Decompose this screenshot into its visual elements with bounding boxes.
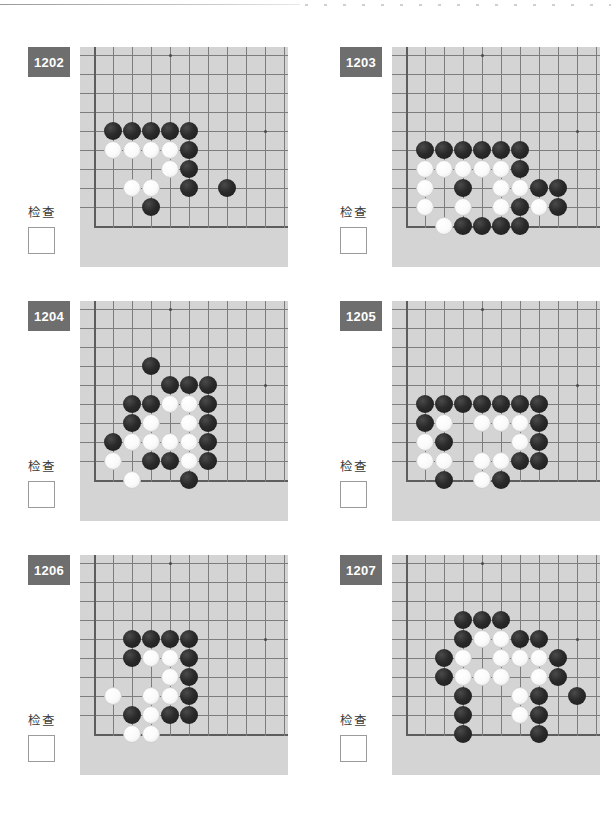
go-board[interactable]: [80, 301, 288, 521]
white-stone[interactable]: [454, 668, 472, 686]
black-stone[interactable]: [180, 141, 198, 159]
black-stone[interactable]: [161, 376, 179, 394]
white-stone[interactable]: [180, 395, 198, 413]
black-stone[interactable]: [218, 179, 236, 197]
black-stone[interactable]: [473, 141, 491, 159]
black-stone[interactable]: [454, 630, 472, 648]
white-stone[interactable]: [161, 141, 179, 159]
white-stone[interactable]: [180, 452, 198, 470]
white-stone[interactable]: [123, 141, 141, 159]
check-checkbox[interactable]: [340, 227, 367, 254]
black-stone[interactable]: [180, 376, 198, 394]
black-stone[interactable]: [492, 395, 510, 413]
white-stone[interactable]: [142, 433, 160, 451]
black-stone[interactable]: [142, 357, 160, 375]
white-stone[interactable]: [142, 706, 160, 724]
black-stone[interactable]: [454, 687, 472, 705]
black-stone[interactable]: [511, 141, 529, 159]
black-stone[interactable]: [492, 471, 510, 489]
white-stone[interactable]: [104, 687, 122, 705]
black-stone[interactable]: [199, 433, 217, 451]
white-stone[interactable]: [473, 471, 491, 489]
white-stone[interactable]: [511, 687, 529, 705]
black-stone[interactable]: [549, 179, 567, 197]
go-board[interactable]: [80, 47, 288, 267]
black-stone[interactable]: [180, 179, 198, 197]
black-stone[interactable]: [435, 649, 453, 667]
black-stone[interactable]: [473, 217, 491, 235]
white-stone[interactable]: [511, 649, 529, 667]
white-stone[interactable]: [492, 414, 510, 432]
black-stone[interactable]: [530, 414, 548, 432]
white-stone[interactable]: [104, 141, 122, 159]
black-stone[interactable]: [530, 433, 548, 451]
black-stone[interactable]: [416, 395, 434, 413]
go-board[interactable]: [80, 555, 288, 775]
white-stone[interactable]: [492, 179, 510, 197]
black-stone[interactable]: [123, 630, 141, 648]
white-stone[interactable]: [161, 433, 179, 451]
white-stone[interactable]: [530, 668, 548, 686]
black-stone[interactable]: [161, 452, 179, 470]
black-stone[interactable]: [454, 725, 472, 743]
black-stone[interactable]: [416, 414, 434, 432]
black-stone[interactable]: [142, 395, 160, 413]
black-stone[interactable]: [454, 706, 472, 724]
black-stone[interactable]: [142, 198, 160, 216]
white-stone[interactable]: [416, 433, 434, 451]
black-stone[interactable]: [104, 122, 122, 140]
black-stone[interactable]: [530, 179, 548, 197]
white-stone[interactable]: [161, 395, 179, 413]
black-stone[interactable]: [161, 630, 179, 648]
white-stone[interactable]: [123, 725, 141, 743]
go-board[interactable]: [392, 47, 600, 267]
white-stone[interactable]: [161, 668, 179, 686]
white-stone[interactable]: [530, 649, 548, 667]
black-stone[interactable]: [530, 395, 548, 413]
black-stone[interactable]: [199, 376, 217, 394]
white-stone[interactable]: [454, 198, 472, 216]
white-stone[interactable]: [435, 452, 453, 470]
white-stone[interactable]: [142, 179, 160, 197]
black-stone[interactable]: [435, 141, 453, 159]
black-stone[interactable]: [511, 198, 529, 216]
white-stone[interactable]: [435, 414, 453, 432]
black-stone[interactable]: [435, 433, 453, 451]
black-stone[interactable]: [180, 668, 198, 686]
black-stone[interactable]: [199, 395, 217, 413]
white-stone[interactable]: [435, 160, 453, 178]
white-stone[interactable]: [142, 725, 160, 743]
check-checkbox[interactable]: [340, 735, 367, 762]
white-stone[interactable]: [161, 649, 179, 667]
black-stone[interactable]: [123, 122, 141, 140]
white-stone[interactable]: [435, 217, 453, 235]
white-stone[interactable]: [511, 433, 529, 451]
white-stone[interactable]: [180, 433, 198, 451]
black-stone[interactable]: [454, 395, 472, 413]
black-stone[interactable]: [492, 141, 510, 159]
black-stone[interactable]: [161, 706, 179, 724]
black-stone[interactable]: [435, 395, 453, 413]
black-stone[interactable]: [416, 141, 434, 159]
black-stone[interactable]: [180, 471, 198, 489]
white-stone[interactable]: [492, 160, 510, 178]
black-stone[interactable]: [473, 611, 491, 629]
white-stone[interactable]: [416, 160, 434, 178]
black-stone[interactable]: [161, 122, 179, 140]
black-stone[interactable]: [511, 452, 529, 470]
white-stone[interactable]: [416, 198, 434, 216]
white-stone[interactable]: [142, 414, 160, 432]
white-stone[interactable]: [473, 160, 491, 178]
check-checkbox[interactable]: [340, 481, 367, 508]
black-stone[interactable]: [454, 179, 472, 197]
black-stone[interactable]: [530, 725, 548, 743]
black-stone[interactable]: [180, 122, 198, 140]
check-checkbox[interactable]: [28, 481, 55, 508]
black-stone[interactable]: [454, 141, 472, 159]
white-stone[interactable]: [123, 433, 141, 451]
white-stone[interactable]: [530, 198, 548, 216]
black-stone[interactable]: [180, 687, 198, 705]
black-stone[interactable]: [180, 649, 198, 667]
black-stone[interactable]: [530, 630, 548, 648]
black-stone[interactable]: [549, 198, 567, 216]
